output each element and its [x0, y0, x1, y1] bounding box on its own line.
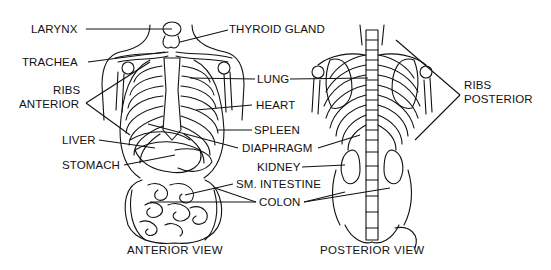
label-thyroid-gland: THYROID GLAND — [229, 23, 325, 35]
label-spleen: SPLEEN — [254, 124, 300, 136]
caption-posterior-view: POSTERIOR VIEW — [320, 244, 425, 256]
label-heart: HEART — [256, 99, 295, 111]
label-ribs-anterior-line2: ANTERIOR — [19, 98, 79, 110]
label-ribs-anterior-line1: RIBS — [53, 84, 80, 96]
anatomy-diagram: LARYNX THYROID GLAND TRACHEA RIBS ANTERI… — [0, 0, 551, 270]
label-kidney: KIDNEY — [257, 161, 300, 173]
anterior-figure — [102, 22, 244, 243]
label-stomach: STOMACH — [62, 159, 120, 171]
label-larynx: LARYNX — [31, 23, 77, 35]
label-lung: LUNG — [257, 73, 289, 85]
label-ribs-posterior-line1: RIBS — [464, 79, 491, 91]
label-sm-intestine: SM. INTESTINE — [236, 178, 321, 190]
label-ribs-posterior-line2: POSTERIOR — [464, 93, 533, 105]
posterior-figure — [312, 25, 432, 248]
label-colon: COLON — [259, 196, 300, 208]
label-liver: LIVER — [62, 134, 96, 146]
label-trachea: TRACHEA — [22, 56, 78, 68]
caption-anterior-view: ANTERIOR VIEW — [127, 244, 223, 256]
label-diaphragm: DIAPHRAGM — [242, 142, 313, 154]
